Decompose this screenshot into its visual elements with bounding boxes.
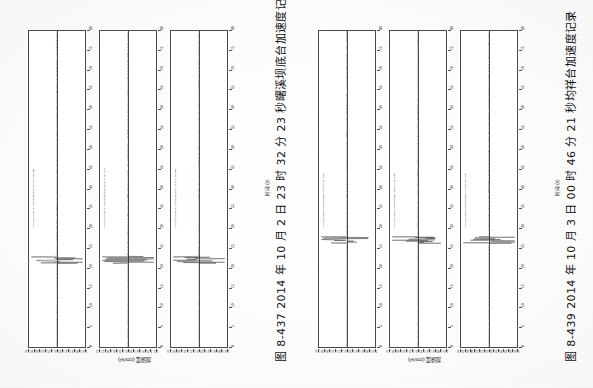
time-tick <box>519 109 522 110</box>
amplitude-axis-title: 加速度 (cm/s²) <box>408 356 441 364</box>
time-tick <box>448 30 451 31</box>
time-tick-label: 25 <box>379 244 383 248</box>
panel-plot-area: Acceleration 089 st 20141003004621 (EW) … <box>390 31 446 347</box>
time-tick <box>87 228 90 229</box>
time-tick-label: 0 <box>89 345 93 347</box>
time-tick <box>519 228 522 229</box>
amplitude-tick-label: 0.0 <box>344 349 349 353</box>
time-tick <box>229 30 232 31</box>
time-tick-label: 20 <box>231 264 235 268</box>
time-tick-label: 35 <box>379 205 383 209</box>
figure-caption-figure-8-439: 图 8-439 2014 年 10 月 3 日 00 时 46 分 21 秒均祥… <box>562 10 578 362</box>
time-tick-label: 55 <box>521 126 525 130</box>
amplitude-tick-label: 0.8 <box>77 349 82 353</box>
amplitude-tick-label: 0.0 <box>125 349 130 353</box>
time-tick-label: 30 <box>89 225 93 229</box>
time-tick-label: 25 <box>231 244 235 248</box>
acceleration-trace <box>390 31 446 347</box>
time-tick-label: 55 <box>160 126 164 130</box>
amplitude-tick-label: 0.6 <box>515 349 520 353</box>
panel-annotation-text: Acceleration 089 st 20141003004621 (UD) … <box>464 173 466 228</box>
amplitude-tick-label: 0.3 <box>131 349 136 353</box>
time-tick-label: 15 <box>231 284 235 288</box>
amplitude-tick-label: 0.6 <box>432 349 437 353</box>
time-tick <box>87 248 90 249</box>
time-tick <box>87 347 90 348</box>
time-tick-label: 80 <box>450 26 454 30</box>
time-tick-label: 0 <box>521 345 525 347</box>
time-tick-label: 65 <box>450 86 454 90</box>
time-tick-label: 5 <box>231 325 235 327</box>
time-tick <box>448 129 451 130</box>
time-tick-label: 25 <box>89 244 93 248</box>
time-tick <box>87 307 90 308</box>
time-tick <box>377 327 380 328</box>
time-tick-label: 60 <box>379 106 383 110</box>
amplitude-tick-label: -0.2 <box>338 349 344 353</box>
time-tick-label: 75 <box>231 46 235 50</box>
time-tick-label: 15 <box>450 284 454 288</box>
time-tick <box>87 208 90 209</box>
time-tick-label: 0 <box>160 345 164 347</box>
panel-plot-area: Acceleration ETBJ-01 st 20141002233223 (… <box>100 31 156 347</box>
time-tick-label: 80 <box>521 26 525 30</box>
acceleration-trace <box>100 31 156 347</box>
time-tick <box>158 228 161 229</box>
time-tick-label: 35 <box>231 205 235 209</box>
time-tick-label: 65 <box>231 86 235 90</box>
time-tick-label: 20 <box>160 264 164 268</box>
time-tick-label: 10 <box>379 304 383 308</box>
time-tick-label: 10 <box>450 304 454 308</box>
time-tick-label: 55 <box>379 126 383 130</box>
panel-annotation-text: Acceleration ETBJ-01 st 20141002233223 (… <box>103 168 105 228</box>
time-tick-label: 35 <box>160 205 164 209</box>
time-tick-label: 55 <box>450 126 454 130</box>
amplitude-tick-label: 1.2 <box>148 349 153 353</box>
time-tick <box>158 307 161 308</box>
time-tick-label: 30 <box>379 225 383 229</box>
amplitude-tick-label: 1.0 <box>373 349 378 353</box>
time-tick-label: 40 <box>450 185 454 189</box>
amplitude-tick-label: 0.0 <box>54 349 59 353</box>
panel-annotation-text: Acceleration 089 st 20141003004621 (NS) … <box>322 174 324 229</box>
time-tick <box>377 347 380 348</box>
time-tick-label: 40 <box>521 185 525 189</box>
time-tick-label: 0 <box>379 345 383 347</box>
time-axis: 05101520253035404550556065707580 <box>229 30 243 348</box>
time-tick-label: 60 <box>231 106 235 110</box>
time-tick-label: 5 <box>89 325 93 327</box>
time-tick-label: 40 <box>231 185 235 189</box>
time-tick-label: 30 <box>160 225 164 229</box>
time-axis: 05101520253035404550556065707580 <box>519 30 533 348</box>
time-tick <box>519 248 522 249</box>
amplitude-tick-label: 0.4 <box>356 349 361 353</box>
acceleration-trace <box>29 31 85 347</box>
time-tick-label: 40 <box>89 185 93 189</box>
time-tick-label: 10 <box>89 304 93 308</box>
amplitude-tick-label: -0.2 <box>409 349 415 353</box>
time-tick <box>87 109 90 110</box>
time-tick-label: 75 <box>89 46 93 50</box>
time-tick <box>158 327 161 328</box>
time-axis-title: 时间 (s) <box>554 179 560 196</box>
time-tick <box>87 129 90 130</box>
time-tick-label: 5 <box>160 325 164 327</box>
time-tick-label: 35 <box>450 205 454 209</box>
time-tick <box>377 129 380 130</box>
acceleration-trace <box>461 31 517 347</box>
panel-plot-area: Acceleration ETBJ-01 st 20141002233223 (… <box>171 31 227 347</box>
time-axis-title: 时间 (s) <box>264 179 270 196</box>
time-tick-label: 0 <box>231 345 235 347</box>
time-tick <box>519 307 522 308</box>
time-tick <box>229 208 232 209</box>
time-tick <box>158 347 161 348</box>
panel-annotation-text: Acceleration ETBJ-01 st 20141002233223 (… <box>174 169 176 228</box>
amplitude-tick-label: -0.2 <box>190 349 196 353</box>
time-tick-label: 65 <box>160 86 164 90</box>
time-tick-label: 45 <box>521 165 525 169</box>
time-tick-label: 80 <box>160 26 164 30</box>
time-tick-label: 60 <box>450 106 454 110</box>
amplitude-tick-label: 0.6 <box>213 349 218 353</box>
time-tick-label: 35 <box>521 205 525 209</box>
time-tick <box>229 307 232 308</box>
